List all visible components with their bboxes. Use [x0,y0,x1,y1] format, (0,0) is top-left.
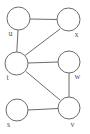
graph-node-x [57,8,80,31]
graph-node-u [7,7,30,30]
graph-node-label-t: t [7,73,10,82]
graph-node-label-u: u [9,29,13,38]
graph-edge-u-x [30,19,57,20]
graph-node-label-x: x [75,30,79,39]
graph-edge-t-v [26,72,60,101]
graph-edge-s-v [28,109,58,111]
nodes-group [5,7,80,121]
graph-node-label-w: w [75,72,81,81]
graph-node-s [6,99,28,121]
graph-edge-t-w [28,62,58,63]
graph-node-v [58,97,80,119]
graph-node-w [58,51,80,73]
graph-node-t [5,52,28,75]
graph-node-label-s: s [7,120,10,129]
graph-edge-t-x [25,29,60,56]
graph-canvas: uxtwsv [0,0,90,134]
graph-diagram: uxtwsv [0,0,90,134]
graph-node-label-v: v [71,120,75,129]
graph-edge-u-t [17,30,18,52]
